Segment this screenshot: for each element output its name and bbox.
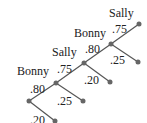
stage4-miss-prob: .25 — [110, 54, 125, 66]
stage3-make-prob: .80 — [85, 43, 100, 55]
node-1 — [54, 81, 59, 86]
stage1-miss-prob: .20 — [30, 114, 45, 123]
node-root — [27, 99, 32, 104]
leaf-miss-3 — [108, 80, 113, 85]
stage1-make-prob: .80 — [30, 83, 45, 95]
stage3-miss-prob: .20 — [84, 74, 99, 86]
stage2-miss-prob: .25 — [57, 95, 72, 107]
node-2 — [82, 61, 87, 66]
node-4 — [137, 22, 142, 27]
stage4-make-prob: .75 — [112, 23, 127, 35]
stage4-player: Sally — [109, 7, 134, 19]
stage2-make-prob: .75 — [57, 63, 72, 75]
leaf-miss-4 — [136, 60, 141, 65]
probability-tree-diagram: Bonny .80 .20 Sally .75 .25 Bonny .80 .2… — [0, 0, 147, 123]
stage2-player: Sally — [52, 46, 77, 58]
stage1-player: Bonny — [17, 65, 49, 77]
node-3 — [109, 42, 114, 47]
leaf-miss-2 — [81, 99, 86, 104]
stage3-player: Bonny — [74, 27, 106, 39]
